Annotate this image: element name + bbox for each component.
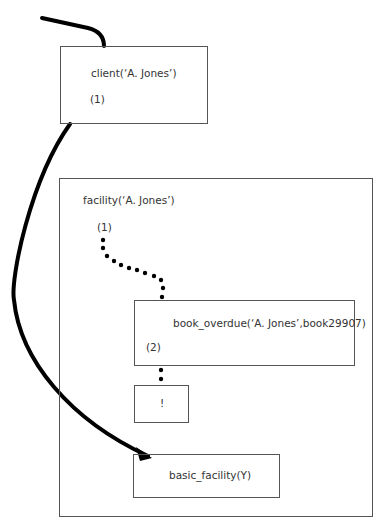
client-label: client(‘A. Jones’) bbox=[91, 67, 177, 79]
basic-facility-label: basic_facility(Y) bbox=[169, 469, 251, 481]
client-box: client(‘A. Jones’) (1) bbox=[60, 46, 208, 124]
cut-label: ! bbox=[160, 397, 164, 409]
facility-marker: (1) bbox=[97, 221, 112, 233]
cut-box: ! bbox=[134, 385, 189, 423]
book-overdue-box: book_overdue(‘A. Jones’,book29907) (2) bbox=[134, 300, 355, 366]
book-overdue-marker: (2) bbox=[146, 341, 161, 353]
facility-label: facility(‘A. Jones’) bbox=[83, 194, 175, 206]
client-marker: (1) bbox=[90, 93, 105, 105]
basic-facility-box: basic_facility(Y) bbox=[133, 454, 280, 498]
incoming-edge bbox=[42, 18, 104, 46]
book-overdue-label: book_overdue(‘A. Jones’,book29907) bbox=[173, 317, 366, 329]
